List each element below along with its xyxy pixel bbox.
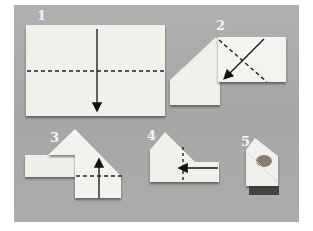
step-number-3: 3: [50, 130, 59, 145]
step-number-4: 4: [147, 128, 156, 143]
step-number-1: 1: [37, 8, 46, 23]
step-1-napkin: [26, 25, 165, 116]
napkin-contents: [256, 155, 272, 167]
step-3-napkin: [25, 129, 123, 198]
folding-steps-illustration: [0, 0, 313, 231]
step-4-napkin: [150, 132, 219, 182]
step-5-napkin: [246, 138, 279, 195]
step-number-2: 2: [216, 18, 225, 33]
step-number-5: 5: [241, 134, 250, 149]
step-2-napkin: [170, 37, 286, 105]
